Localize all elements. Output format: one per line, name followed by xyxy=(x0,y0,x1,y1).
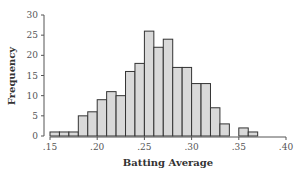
histogram-bar xyxy=(97,100,106,136)
histogram-bar xyxy=(182,67,191,136)
histogram-bar xyxy=(192,84,201,136)
histogram-bars xyxy=(50,31,258,136)
histogram-bar xyxy=(173,67,182,136)
histogram-bar xyxy=(135,63,144,136)
histogram-chart: 051015202530.15.20.25.30.35.40 Batting A… xyxy=(0,0,304,174)
y-tick-label: 15 xyxy=(27,71,39,81)
x-tick-label: .30 xyxy=(184,142,199,152)
x-tick-label: .40 xyxy=(279,142,294,152)
y-tick-label: 25 xyxy=(27,30,39,40)
x-tick-label: .20 xyxy=(90,142,105,152)
histogram-bar xyxy=(163,39,172,136)
y-tick-label: 5 xyxy=(32,111,38,121)
histogram-bar xyxy=(220,124,229,136)
x-tick-label: .35 xyxy=(232,142,247,152)
y-tick-label: 10 xyxy=(27,91,39,101)
histogram-bar xyxy=(107,92,116,136)
histogram-bar xyxy=(78,116,87,136)
y-tick-label: 20 xyxy=(27,50,39,60)
y-tick-label: 0 xyxy=(32,131,38,141)
y-axis-title: Frequency xyxy=(6,46,17,106)
histogram-bar xyxy=(144,31,153,136)
histogram-bar xyxy=(248,132,257,136)
histogram-bar xyxy=(88,112,97,136)
histogram-bar xyxy=(69,132,78,136)
x-axis-title: Batting Average xyxy=(123,157,213,168)
histogram-bar xyxy=(154,47,163,136)
histogram-bar xyxy=(116,96,125,136)
histogram-bar xyxy=(210,108,219,136)
histogram-bar xyxy=(239,128,248,136)
x-tick-label: .15 xyxy=(43,142,58,152)
histogram-bar xyxy=(59,132,68,136)
histogram-bar xyxy=(126,71,135,136)
x-tick-label: .25 xyxy=(137,142,152,152)
y-tick-label: 30 xyxy=(27,10,39,20)
histogram-bar xyxy=(50,132,59,136)
histogram-bar xyxy=(201,84,210,136)
